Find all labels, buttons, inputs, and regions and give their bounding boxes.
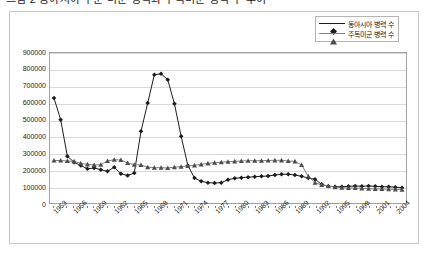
x-axis-tick — [161, 206, 162, 208]
legend-label-east-asia: 동아시아 병력 수 — [348, 20, 394, 29]
data-point-marker — [172, 102, 177, 107]
chart-container: 9000008000007000006000005000004000003000… — [9, 11, 419, 244]
x-axis-tick — [80, 206, 81, 208]
y-axis-tick-label: 600000 — [11, 99, 49, 106]
x-axis-tick — [93, 206, 94, 208]
x-axis-tick — [154, 206, 155, 208]
series-plot — [50, 53, 406, 203]
x-axis-tick — [295, 206, 296, 208]
data-point-marker — [179, 134, 184, 139]
x-axis-tick — [215, 206, 216, 208]
data-point-marker — [52, 96, 57, 101]
y-axis-tick-label: 300000 — [11, 150, 49, 157]
data-point-marker — [125, 173, 130, 178]
x-axis-tick — [268, 206, 269, 208]
x-axis-tick — [336, 206, 337, 208]
data-point-marker — [58, 117, 63, 122]
x-axis-tick — [282, 206, 283, 208]
data-point-marker — [212, 181, 217, 186]
plot-wrapper: 9000008000007000006000005000004000003000… — [10, 12, 420, 245]
page-title: 그림 2 동아시아 주둔 미군 병력과 주독미군 병력 수 추이 — [6, 0, 266, 6]
data-point-marker — [259, 174, 264, 179]
x-axis-tick — [369, 206, 370, 208]
y-axis-tick-label: 0 — [11, 201, 49, 208]
x-axis-tick — [221, 206, 222, 208]
y-axis-tick-label: 400000 — [11, 133, 49, 140]
x-axis-tick — [194, 206, 195, 208]
x-axis-tick — [174, 206, 175, 208]
data-point-marker — [299, 174, 304, 179]
data-point-marker — [99, 167, 104, 172]
x-axis-tick — [255, 206, 256, 208]
data-point-marker — [279, 172, 284, 177]
data-point-marker — [232, 176, 237, 181]
x-axis-labels: 1953195619591962196519681971197419771980… — [49, 206, 407, 246]
data-point-marker — [145, 101, 150, 106]
x-axis-tick — [127, 206, 128, 208]
data-point-marker — [192, 176, 197, 181]
x-axis-tick — [107, 206, 108, 208]
x-axis-tick — [241, 206, 242, 208]
x-axis-tick — [87, 206, 88, 208]
legend-entry-east-asia: 동아시아 병력 수 — [319, 19, 394, 29]
chart-legend: 동아시아 병력 수 주독미군 병력 수 — [315, 16, 399, 42]
data-point-marker — [139, 129, 144, 134]
x-axis-tick — [66, 206, 67, 208]
data-point-marker — [152, 72, 157, 77]
data-point-marker — [199, 179, 204, 184]
data-point-marker — [132, 171, 137, 176]
x-axis-tick — [120, 206, 121, 208]
data-point-marker — [246, 175, 251, 180]
x-axis-tick — [134, 206, 135, 208]
y-axis-tick-label: 700000 — [11, 82, 49, 89]
data-point-marker — [125, 161, 130, 166]
x-axis-tick — [349, 206, 350, 208]
y-axis-tick-label: 100000 — [11, 184, 49, 191]
x-axis-tick — [228, 206, 229, 208]
y-axis-tick-label: 500000 — [11, 116, 49, 123]
x-axis-tick — [114, 206, 115, 208]
x-axis-tick — [309, 206, 310, 208]
x-axis-tick — [262, 206, 263, 208]
x-axis-tick — [316, 206, 317, 208]
x-axis-tick — [396, 206, 397, 208]
x-axis-tick — [73, 206, 74, 208]
x-axis-tick — [289, 206, 290, 208]
x-axis-tick — [248, 206, 249, 208]
x-axis-tick — [147, 206, 148, 208]
data-point-marker — [273, 173, 278, 178]
data-point-marker — [105, 169, 110, 174]
data-point-marker — [299, 163, 304, 168]
data-point-marker — [219, 180, 224, 185]
series-line-germany — [54, 160, 402, 190]
x-axis-tick — [167, 206, 168, 208]
x-axis-tick — [376, 206, 377, 208]
x-axis-tick — [390, 206, 391, 208]
data-point-marker — [293, 173, 298, 178]
plot-area — [49, 52, 407, 204]
data-point-marker — [85, 167, 90, 172]
y-axis-tick-label: 200000 — [11, 167, 49, 174]
x-axis-tick — [181, 206, 182, 208]
x-axis-tick — [208, 206, 209, 208]
data-point-marker — [239, 175, 244, 180]
data-point-marker — [226, 177, 231, 182]
x-axis-tick — [141, 206, 142, 208]
data-point-marker — [306, 174, 311, 179]
data-point-marker — [286, 172, 291, 177]
x-axis-tick — [342, 206, 343, 208]
data-point-marker — [206, 180, 211, 185]
y-axis-tick-label: 800000 — [11, 65, 49, 72]
x-axis-tick — [356, 206, 357, 208]
legend-label-germany: 주독미군 병력 수 — [348, 30, 394, 39]
x-axis-tick — [363, 206, 364, 208]
x-axis-tick — [60, 206, 61, 208]
chart-title-strip: 그림 2 동아시아 주둔 미군 병력과 주독미군 병력 수 추이 — [0, 0, 428, 9]
x-axis-tick — [275, 206, 276, 208]
legend-entry-germany: 주독미군 병력 수 — [319, 29, 394, 39]
triangle-marker-icon — [319, 29, 345, 39]
x-axis-tick — [235, 206, 236, 208]
x-axis-tick — [188, 206, 189, 208]
x-axis-tick — [100, 206, 101, 208]
data-point-marker — [266, 174, 271, 179]
